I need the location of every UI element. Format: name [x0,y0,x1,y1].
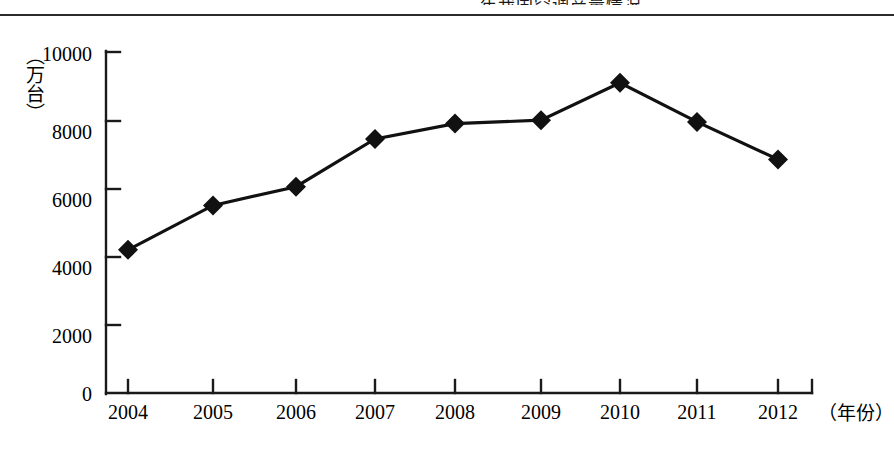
line-chart: （万台） 10000 8000 6000 4000 2000 0 2004 20… [0,0,894,460]
data-point-marker [531,110,551,130]
data-point-marker [365,129,385,149]
plot-svg [0,0,894,460]
data-point-marker [687,112,707,132]
data-point-marker [203,195,223,215]
data-point-marker [445,114,465,134]
data-point-marker [610,73,630,93]
data-series-line [128,83,778,250]
data-series-markers [118,73,788,260]
y-axis-ticks [106,52,120,325]
data-point-marker [768,149,788,169]
x-axis-ticks [128,380,812,393]
data-point-marker [286,177,306,197]
